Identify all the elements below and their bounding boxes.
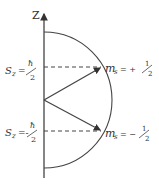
lower-sz-label: S z =- ħ 2 [5, 121, 37, 144]
spin-down-vector [44, 100, 100, 130]
svg-text:ħ: ħ [30, 121, 35, 130]
svg-text:=-: =- [18, 128, 29, 138]
svg-text:s: s [114, 68, 118, 76]
upper-sz-label: S z = ħ 2 [5, 59, 36, 82]
svg-text:1: 1 [142, 125, 146, 133]
spin-diagram-svg: Z S z = ħ 2 S z =- ħ 2 m s [0, 0, 159, 184]
semicircle [44, 32, 112, 168]
svg-text:= +: = + [120, 65, 136, 74]
svg-text:2: 2 [31, 135, 36, 144]
svg-text:=: = [18, 66, 26, 76]
lower-ms-label: m s = − 1 2 [105, 125, 149, 143]
svg-text:2: 2 [30, 73, 35, 82]
z-axis-label: Z [32, 9, 40, 22]
svg-text:S: S [5, 65, 12, 76]
spin-up-vector [44, 68, 100, 100]
svg-text:= −: = − [120, 130, 136, 139]
svg-text:z: z [11, 132, 16, 140]
svg-text:2: 2 [145, 135, 149, 143]
svg-text:z: z [11, 70, 16, 78]
svg-text:s: s [114, 133, 118, 141]
spin-diagram: Z S z = ħ 2 S z =- ħ 2 m s [0, 0, 159, 184]
svg-text:ħ: ħ [28, 59, 33, 68]
svg-text:1: 1 [145, 60, 149, 68]
svg-text:S: S [5, 127, 12, 138]
svg-text:2: 2 [148, 70, 152, 78]
upper-ms-label: m s = + 1 2 [105, 60, 152, 78]
